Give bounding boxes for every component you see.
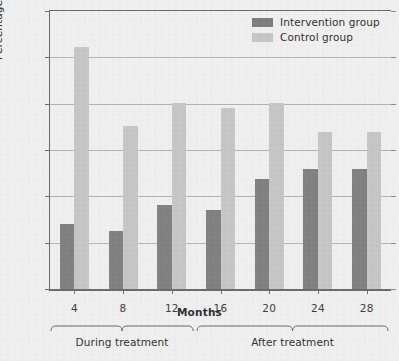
legend-swatch-control-icon [252,33,273,42]
bar-control-8 [123,126,138,289]
bar-control-12 [172,103,187,289]
legend-item-control: Control group [252,31,380,43]
y-tick-mark [45,11,50,12]
y-tick-mark [45,150,50,151]
y-tick-mark-right [391,57,396,58]
y-tick-mark [45,57,50,58]
plot-inner [50,11,391,289]
y-axis-title: Percentage needing institutional care [0,0,4,60]
y-tick-mark [45,243,50,244]
x-tick-mark [269,289,270,294]
bar-intervention-16 [206,210,221,289]
bar-intervention-8 [109,231,124,289]
x-tick-mark [221,289,222,294]
bar-control-16 [221,108,236,289]
bar-intervention-4 [60,224,75,289]
bar-control-24 [318,132,333,289]
y-tick-mark-right [391,11,396,12]
plot-area: 051015202530481216202428 [49,10,391,289]
x-tick-mark [123,289,124,294]
legend-label-control: Control group [280,31,353,43]
bar-control-20 [269,103,284,289]
legend-item-intervention: Intervention group [252,16,380,28]
y-tick-mark-right [391,150,396,151]
x-axis-title: Months [0,306,399,318]
bar-control-4 [74,47,89,289]
x-tick-mark [318,289,319,294]
y-tick-mark-right [391,289,396,290]
bar-chart-figure: Percentage needing institutional care 05… [0,0,399,361]
x-tick-mark [74,289,75,294]
bar-intervention-12 [157,205,172,289]
bar-intervention-24 [303,169,318,289]
y-tick-mark [45,196,50,197]
legend-label-intervention: Intervention group [280,16,380,28]
y-tick-mark [45,289,50,290]
y-tick-mark-right [391,243,396,244]
bar-intervention-28 [352,169,367,289]
y-tick-mark-right [391,196,396,197]
chart-legend: Intervention group Control group [252,16,380,46]
gridline [50,104,391,105]
y-tick-mark-right [391,104,396,105]
y-tick-mark [45,104,50,105]
bracket-lines [0,318,399,358]
legend-swatch-intervention-icon [252,18,273,27]
gridline [50,57,391,58]
x-tick-mark [172,289,173,294]
x-tick-mark [367,289,368,294]
bar-control-28 [367,132,382,289]
bar-intervention-20 [255,179,270,289]
treatment-phase-brackets: During treatmentAfter treatment [0,318,399,358]
